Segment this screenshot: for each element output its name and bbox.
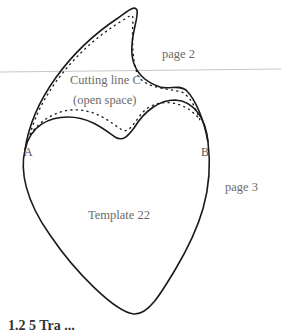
heart-outline bbox=[23, 142, 209, 314]
point-b-label: B bbox=[201, 145, 209, 160]
template-label: Template 22 bbox=[88, 208, 150, 223]
point-a-label: A bbox=[24, 145, 33, 160]
open-space-label: (open space) bbox=[73, 93, 137, 108]
page-divider-line bbox=[0, 69, 281, 72]
figure-caption: 1.2 5 Tra ... bbox=[8, 318, 75, 334]
page-3-label: page 3 bbox=[225, 180, 258, 195]
page-2-label: page 2 bbox=[162, 47, 195, 62]
cutting-line-label: Cutting line C bbox=[70, 73, 141, 88]
